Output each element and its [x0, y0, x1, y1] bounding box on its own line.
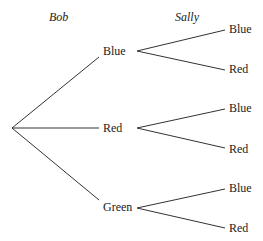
sally-node: Red [229, 221, 248, 235]
sally-node: Blue [229, 22, 252, 36]
sally-node: Red [229, 142, 248, 156]
header-bob: Bob [49, 10, 68, 24]
bob-node-red: Red [103, 121, 122, 135]
bob-node-blue: Blue [103, 44, 126, 58]
header-sally: Sally [175, 10, 199, 24]
bob-node-green: Green [103, 200, 132, 214]
sally-node: Blue [229, 181, 252, 195]
tree-diagram: Bob Sally Blue Red Green Blue Red Blue R… [0, 0, 263, 241]
sally-node: Blue [229, 101, 252, 115]
sally-node: Red [229, 62, 248, 76]
